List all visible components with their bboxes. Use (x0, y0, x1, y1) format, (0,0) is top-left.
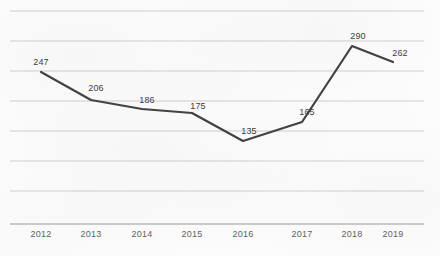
data-point-value-label: 262 (392, 48, 408, 58)
x-axis-tick-label: 2015 (182, 229, 203, 239)
data-point-value-label: 135 (241, 126, 257, 136)
x-axis-tick-label: 2016 (233, 229, 254, 239)
series-line (41, 46, 393, 141)
x-axis-tick-label: 2019 (383, 229, 404, 239)
data-point-value-label: 186 (139, 95, 155, 105)
line-chart: 20122013201420152016201720182019 2472061… (0, 0, 440, 256)
data-point-value-label: 247 (33, 57, 49, 67)
data-point-value-label: 165 (299, 107, 315, 117)
data-point-value-label: 175 (190, 101, 206, 111)
data-point-value-label: 206 (88, 83, 104, 93)
x-axis-tick-label: 2014 (132, 229, 153, 239)
x-axis-tick-label: 2017 (292, 229, 313, 239)
x-axis-tick-label: 2012 (31, 229, 52, 239)
x-axis-tick-label: 2013 (81, 229, 102, 239)
data-point-value-label: 290 (350, 31, 366, 41)
x-axis-tick-label: 2018 (342, 229, 363, 239)
chart-plot-area (0, 0, 440, 256)
